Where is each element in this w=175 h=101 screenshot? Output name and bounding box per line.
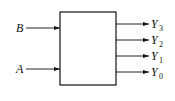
diagram-canvas: B A Y 3 Y 2 Y 1 Y 0 — [0, 0, 175, 101]
output-y0-label: Y — [151, 65, 159, 79]
input-b: B — [16, 21, 60, 35]
output-y2: Y 2 — [116, 33, 163, 49]
logic-block — [60, 12, 116, 85]
input-a-label: A — [15, 62, 24, 76]
output-y0-subscript: 0 — [159, 72, 163, 81]
output-y3: Y 3 — [116, 17, 163, 33]
output-y1-subscript: 1 — [159, 56, 163, 65]
input-a: A — [15, 62, 60, 76]
output-y3-label: Y — [151, 17, 159, 31]
input-b-label: B — [16, 21, 24, 35]
output-y3-subscript: 3 — [159, 24, 163, 33]
output-y0: Y 0 — [116, 65, 163, 81]
output-y2-label: Y — [151, 33, 159, 47]
output-y1: Y 1 — [116, 49, 163, 65]
output-y2-subscript: 2 — [159, 40, 163, 49]
output-y1-label: Y — [151, 49, 159, 63]
